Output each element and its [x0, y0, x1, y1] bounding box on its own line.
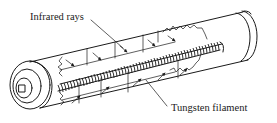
tube-body [30, 12, 248, 108]
infrared-ray-arrows [66, 36, 187, 103]
right-end-cap [236, 11, 257, 61]
infrared-heater-diagram: Infrared rays Tungsten filament [0, 0, 277, 123]
tungsten-filament-label: Tungsten filament [171, 103, 247, 114]
left-end-cap [10, 61, 52, 109]
tungsten-filament-leader [146, 80, 167, 106]
infrared-rays-label: Infrared rays [30, 12, 84, 23]
